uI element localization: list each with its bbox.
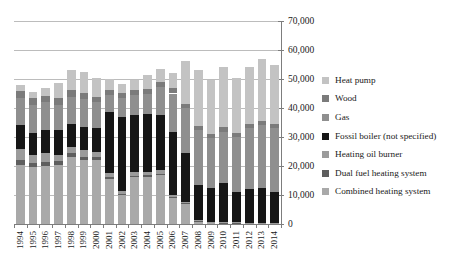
bar-segment-gas	[105, 95, 114, 112]
bar-segment-dual-fuel-heating-system	[41, 162, 50, 166]
bar-segment-dual-fuel-heating-system	[156, 174, 165, 175]
bar-segment-heating-oil-burner	[169, 195, 178, 197]
x-axis-label-1998: 1998	[66, 231, 76, 261]
bar-segment-wood	[270, 124, 279, 128]
bar-segment-heating-oil-burner	[181, 202, 190, 203]
bar-segment-gas	[143, 94, 152, 114]
bar-segment-heating-oil-burner	[16, 149, 25, 160]
bar-segment-wood	[219, 127, 228, 131]
legend-label: Heating oil burner	[335, 149, 402, 160]
x-axis-label-2008: 2008	[193, 231, 203, 261]
bar-segment-gas	[67, 97, 76, 124]
x-axis-tick	[205, 224, 206, 228]
bar-segment-gas	[245, 128, 254, 189]
bar-segment-gas	[194, 130, 203, 185]
bar-segment-heat-pump	[156, 69, 165, 81]
bar-segment-fossil-boiler-not-specified	[169, 132, 178, 195]
bar-segment-heat-pump	[41, 88, 50, 96]
bar-segment-combined-heating-system	[118, 195, 127, 224]
bar-segment-fossil-boiler-not-specified	[105, 112, 114, 173]
bar-segment-gas	[29, 105, 38, 133]
bar-segment-dual-fuel-heating-system	[80, 157, 89, 160]
y-axis-label: 10,000	[288, 190, 314, 200]
bar-segment-wood	[181, 104, 190, 109]
bar-segment-dual-fuel-heating-system	[105, 177, 114, 179]
legend: Heat pumpWoodGasFossil boiler (not speci…	[322, 71, 436, 201]
legend-marker-icon	[322, 95, 329, 102]
legend-item-heat-pump: Heat pump	[322, 71, 436, 90]
x-axis-line	[14, 224, 281, 225]
bar-segment-fossil-boiler-not-specified	[194, 185, 203, 220]
x-axis-label-1996: 1996	[40, 231, 50, 261]
x-axis-tick	[103, 224, 104, 228]
x-axis-label-2014: 2014	[269, 231, 279, 261]
bar-segment-wood	[80, 93, 89, 99]
x-axis-label-2010: 2010	[218, 231, 228, 261]
x-axis-tick	[39, 224, 40, 228]
bar-segment-combined-heating-system	[245, 223, 254, 224]
x-axis-tick	[141, 224, 142, 228]
bar-segment-heat-pump	[29, 92, 38, 98]
bar-segment-heat-pump	[105, 79, 114, 90]
bar-segment-heat-pump	[130, 80, 139, 90]
legend-label: Wood	[335, 93, 357, 104]
bar-segment-heating-oil-burner	[207, 222, 216, 223]
bar-segment-heat-pump	[169, 73, 178, 88]
bar-segment-combined-heating-system	[16, 165, 25, 224]
bar-segment-combined-heating-system	[181, 204, 190, 224]
x-axis-tick	[179, 224, 180, 228]
bar-segment-heating-oil-burner	[105, 173, 114, 177]
bar-segment-combined-heating-system	[29, 167, 38, 224]
bar-segment-gas	[232, 137, 241, 192]
y-axis-label: 20,000	[288, 161, 314, 171]
bar-segment-combined-heating-system	[219, 223, 228, 224]
x-axis-label-1997: 1997	[53, 231, 63, 261]
x-axis-label-2007: 2007	[180, 231, 190, 261]
bar-segment-dual-fuel-heating-system	[143, 175, 152, 176]
x-axis-label-2009: 2009	[206, 231, 216, 261]
bar-segment-heat-pump	[118, 84, 127, 93]
bar-segment-heating-oil-burner	[92, 152, 101, 158]
bar-segment-heating-oil-burner	[130, 172, 139, 176]
bar-segment-gas	[156, 87, 165, 115]
bar-segment-heating-oil-burner	[67, 147, 76, 153]
gridline	[14, 50, 281, 51]
bar-segment-wood	[16, 91, 25, 98]
bar-segment-fossil-boiler-not-specified	[67, 124, 76, 147]
legend-label: Fossil boiler (not specified)	[335, 131, 436, 142]
bar-segment-heating-oil-burner	[143, 172, 152, 175]
bar-segment-fossil-boiler-not-specified	[245, 189, 254, 222]
bar-segment-wood	[156, 82, 165, 87]
bar-segment-heat-pump	[181, 61, 190, 104]
bar-segment-heating-oil-burner	[41, 153, 50, 162]
bar-segment-heat-pump	[207, 80, 216, 134]
bar-segment-gas	[181, 108, 190, 153]
bar-segment-dual-fuel-heating-system	[181, 203, 190, 204]
legend-marker-icon	[322, 188, 329, 195]
x-axis-tick	[65, 224, 66, 228]
x-axis-tick	[268, 224, 269, 228]
x-axis-tick	[116, 224, 117, 228]
bar-segment-heat-pump	[92, 78, 101, 96]
bar-segment-heating-oil-burner	[194, 220, 203, 221]
x-axis-label-2006: 2006	[167, 231, 177, 261]
x-axis-label-2005: 2005	[155, 231, 165, 261]
bar-segment-gas	[207, 138, 216, 188]
bar-segment-fossil-boiler-not-specified	[156, 115, 165, 170]
bar-segment-heat-pump	[67, 70, 76, 90]
legend-label: Dual fuel heating system	[335, 168, 427, 179]
bar-segment-gas	[92, 102, 101, 128]
bar-segment-dual-fuel-heating-system	[118, 194, 127, 195]
bar-segment-wood	[207, 134, 216, 138]
legend-item-fossil-boiler-not-specified: Fossil boiler (not specified)	[322, 127, 436, 146]
x-axis-label-2011: 2011	[231, 231, 241, 261]
legend-marker-icon	[322, 133, 329, 140]
x-axis-label-1995: 1995	[28, 231, 38, 261]
bar-segment-wood	[258, 121, 267, 125]
legend-marker-icon	[322, 114, 329, 121]
bar-segment-combined-heating-system	[194, 221, 203, 224]
bar-segment-heat-pump	[258, 59, 267, 121]
x-axis-tick	[14, 224, 15, 228]
legend-label: Heat pump	[335, 75, 376, 86]
bar-segment-heat-pump	[219, 67, 228, 127]
